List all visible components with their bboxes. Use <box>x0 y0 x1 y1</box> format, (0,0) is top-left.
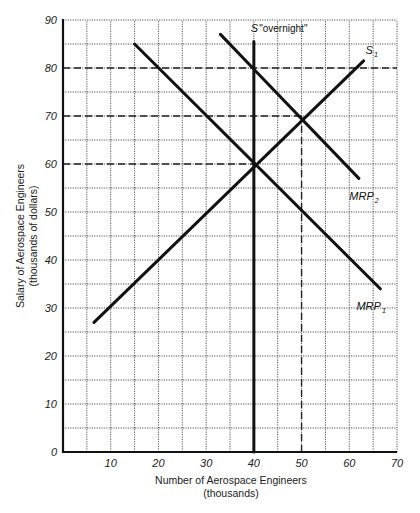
s1-label: S1 <box>366 44 378 58</box>
y-tick-label: 60 <box>45 158 58 170</box>
y-tick-label: 50 <box>45 206 58 218</box>
s-overnight-label: S"overnight" <box>251 22 308 34</box>
y-tick-label: 10 <box>45 398 58 410</box>
y-tick-label: 20 <box>44 350 58 362</box>
y-tick-label: 30 <box>45 302 58 314</box>
x-tick-label: 70 <box>391 457 404 469</box>
x-tick-label: 60 <box>343 457 356 469</box>
y-tick-label: 90 <box>45 14 58 26</box>
grid <box>63 20 397 452</box>
x-tick-label: 30 <box>200 457 213 469</box>
labor-market-chart: 010203040506070809010203040506070 S"over… <box>0 0 420 513</box>
y-tick-label: 80 <box>45 62 58 74</box>
curves <box>94 34 380 452</box>
tick-labels: 010203040506070809010203040506070 <box>44 14 404 469</box>
y-tick-label: 70 <box>45 110 58 122</box>
mrp2-label: MRP2 <box>349 190 378 204</box>
x-axis-subtitle: (thousands) <box>203 487 258 499</box>
y-axis-title: Salary of Aerospace Engineers <box>14 164 26 308</box>
x-tick-label: 40 <box>248 457 261 469</box>
x-tick-label: 20 <box>151 457 165 469</box>
y-axis-subtitle: (thousands of dollars) <box>27 186 39 287</box>
y-tick-label: 40 <box>45 254 58 266</box>
x-axis-title: Number of Aerospace Engineers <box>155 474 307 486</box>
mrp1-label: MRP1 <box>356 300 385 314</box>
mrp2-demand-curve <box>220 34 358 178</box>
y-tick-label: 0 <box>51 446 58 458</box>
x-tick-label: 50 <box>295 457 308 469</box>
curve-labels: S"overnight"S1MRP1MRP2 <box>251 22 386 314</box>
x-tick-label: 10 <box>105 457 118 469</box>
